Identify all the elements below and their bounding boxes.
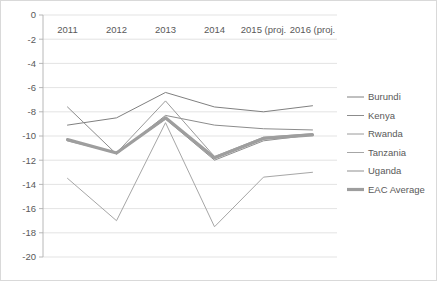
series-line-eac-average	[68, 118, 313, 158]
x-axis-tick-label: 2012	[106, 24, 127, 35]
y-axis-tick-label: -8	[28, 106, 36, 117]
chart-container: 0-2-4-6-8-10-12-14-16-18-202011201220132…	[0, 0, 437, 281]
y-axis-tick-label: -16	[22, 203, 36, 214]
y-axis-tick-label: -6	[28, 82, 36, 93]
x-axis-tick-label: 2014	[204, 24, 225, 35]
series-line-kenya	[68, 107, 313, 154]
legend-label-uganda: Uganda	[368, 165, 402, 176]
series-group	[68, 92, 313, 226]
x-axis-tick-label: 2011	[57, 24, 77, 35]
y-axis-tick-label: 0	[31, 9, 36, 20]
y-axis-tick-label: -20	[22, 251, 36, 262]
legend-label-kenya: Kenya	[368, 110, 396, 121]
chart-legend: BurundiKenyaRwandaTanzaniaUgandaEAC Aver…	[347, 91, 425, 194]
line-chart-plot: 0-2-4-6-8-10-12-14-16-18-202011201220132…	[1, 1, 437, 281]
y-axis-tick-label: -4	[28, 58, 36, 69]
x-axis-tick-label: 2013	[155, 24, 176, 35]
x-axis-tick-label: 2015 (proj.	[241, 24, 286, 35]
legend-label-rwanda: Rwanda	[368, 128, 404, 139]
legend-label-tanzania: Tanzania	[368, 147, 407, 158]
x-axis-labels: 20112012201320142015 (proj.2016 (proj.	[57, 24, 335, 35]
y-axis-tick-label: -18	[22, 227, 36, 238]
y-axis-tick-label: -10	[22, 130, 36, 141]
y-axis-tick-label: -12	[22, 155, 36, 166]
y-axis-tick-label: -14	[22, 179, 36, 190]
legend-label-burundi: Burundi	[368, 91, 401, 102]
x-axis-tick-label: 2016 (proj.	[290, 24, 335, 35]
legend-label-eac-average: EAC Average	[368, 184, 425, 195]
y-axis-tick-label: -2	[28, 34, 36, 45]
